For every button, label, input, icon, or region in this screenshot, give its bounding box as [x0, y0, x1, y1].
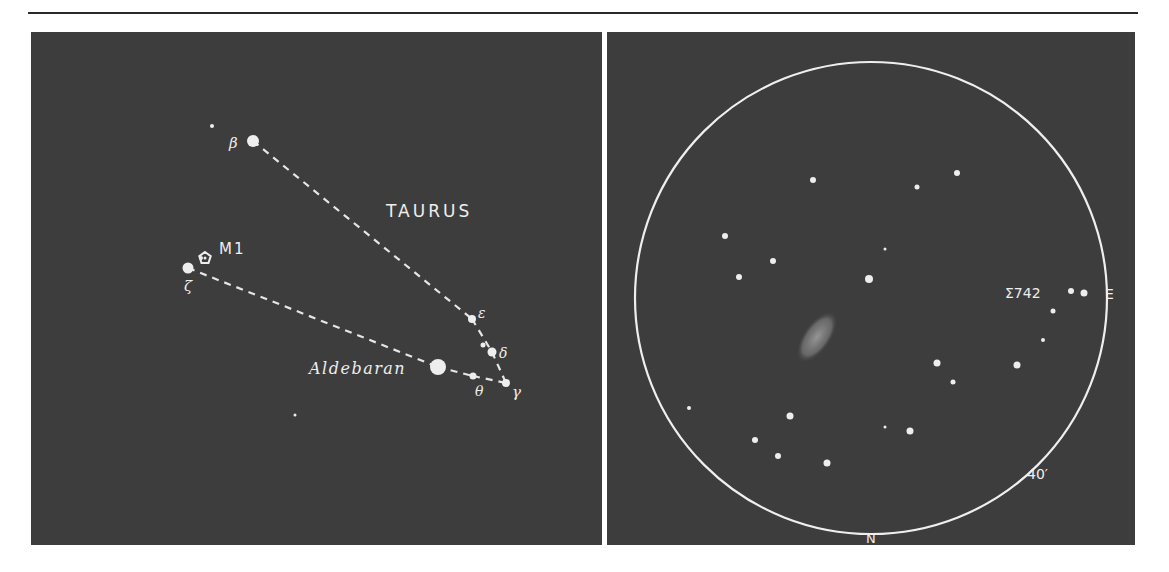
field-size-label: 40′	[1027, 466, 1048, 482]
star-gamma	[502, 379, 510, 387]
gamma-label: γ	[512, 383, 521, 401]
top-rule	[28, 12, 1138, 14]
field-star	[1068, 288, 1074, 294]
epsilon-label: ε	[478, 305, 486, 321]
field-star	[722, 233, 728, 239]
m1-label: M1	[219, 240, 246, 258]
field-star	[1051, 309, 1056, 314]
field-star	[1014, 362, 1021, 369]
finder-chart: TAURUS M1 Aldebaran β ζ ε δ γ θ	[31, 32, 602, 545]
field-star	[907, 428, 914, 435]
field-star	[934, 360, 941, 367]
minor-star	[210, 124, 214, 128]
minor-star	[294, 414, 297, 417]
crab-nebula	[788, 304, 845, 369]
star-theta	[470, 373, 477, 380]
field-star	[915, 185, 920, 190]
field-star	[770, 258, 776, 264]
field-star	[951, 380, 956, 385]
east-label: E	[1105, 286, 1114, 302]
north-label: N	[866, 531, 876, 545]
double-star-label: Σ742	[1005, 285, 1041, 301]
constellation-label: TAURUS	[385, 201, 472, 221]
field-star	[1041, 338, 1045, 342]
star-delta	[488, 348, 497, 357]
delta-label: δ	[499, 345, 507, 361]
field-star	[775, 453, 781, 459]
eyepiece-stars	[687, 170, 1088, 467]
field-star	[752, 437, 758, 443]
star-beta	[247, 135, 259, 147]
field-star	[687, 406, 691, 410]
aldebaran-label: Aldebaran	[307, 359, 406, 378]
field-star	[810, 177, 816, 183]
star-zeta	[183, 263, 194, 274]
star-aldebaran	[430, 359, 446, 375]
star-epsilon	[468, 315, 476, 323]
eyepiece-view: Σ742 E N 40′	[607, 32, 1135, 545]
field-star	[824, 460, 831, 467]
minor-star	[481, 343, 486, 348]
field-star	[954, 170, 960, 176]
zeta-label: ζ	[184, 277, 193, 295]
theta-label: θ	[475, 383, 484, 399]
finder-chart-panel: TAURUS M1 Aldebaran β ζ ε δ γ θ	[31, 32, 602, 545]
field-star	[736, 274, 742, 280]
field-star	[865, 275, 873, 283]
beta-label: β	[228, 134, 238, 152]
field-star	[884, 426, 887, 429]
field-star	[1081, 290, 1088, 297]
field-star	[884, 248, 887, 251]
asterism-lines	[188, 141, 506, 383]
eyepiece-view-panel: Σ742 E N 40′	[607, 32, 1135, 545]
field-star	[787, 413, 794, 420]
